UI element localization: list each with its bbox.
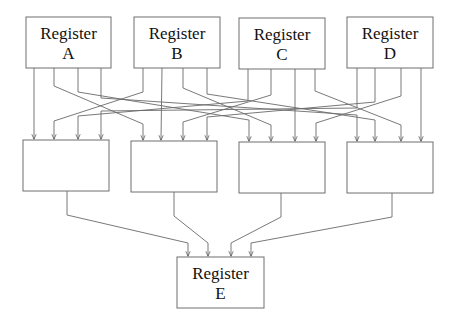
middle-unit-m4	[347, 142, 433, 193]
wire-M3-to-E	[231, 193, 281, 256]
middle-unit-box	[347, 142, 433, 193]
register-letter: C	[276, 45, 287, 64]
wire-D3-to-M3	[316, 68, 401, 141]
register-letter: D	[384, 44, 396, 63]
middle-unit-box	[23, 140, 109, 191]
register-label: Register	[254, 25, 311, 44]
wire-A4-to-M4	[101, 68, 357, 141]
register-a: RegisterA	[26, 17, 111, 68]
middle-unit-box	[239, 142, 325, 193]
wire-M4-to-E	[251, 193, 392, 256]
wire-M1-to-E	[67, 191, 188, 256]
middle-unit-box	[131, 141, 217, 192]
register-letter: E	[215, 284, 225, 303]
register-label: Register	[149, 24, 206, 43]
wire-D1-to-M1	[101, 68, 357, 139]
middle-unit-m1	[23, 140, 109, 191]
register-boxes: RegisterARegisterBRegisterCRegisterDRegi…	[23, 17, 433, 308]
wire-B2-to-M2	[161, 68, 162, 140]
middle-unit-m3	[239, 142, 325, 193]
register-c: RegisterC	[239, 18, 325, 69]
middle-unit-m2	[131, 141, 217, 192]
wire-B1-to-M1	[54, 68, 143, 139]
register-interconnect-diagram: RegisterARegisterBRegisterCRegisterDRegi…	[0, 0, 458, 325]
wire-C1-to-M1	[78, 69, 248, 139]
register-d: RegisterD	[347, 17, 433, 68]
register-b: RegisterB	[134, 17, 220, 68]
wire-A2-to-M2	[54, 68, 143, 140]
wire-C4-to-M4	[315, 69, 401, 141]
register-label: Register	[40, 24, 97, 43]
register-e: RegisterE	[177, 257, 264, 308]
wire-D2-to-M2	[207, 68, 375, 140]
register-label: Register	[192, 264, 249, 283]
wire-M2-to-E	[174, 192, 208, 256]
register-letter: A	[62, 44, 75, 63]
register-letter: B	[171, 44, 182, 63]
register-label: Register	[362, 24, 419, 43]
